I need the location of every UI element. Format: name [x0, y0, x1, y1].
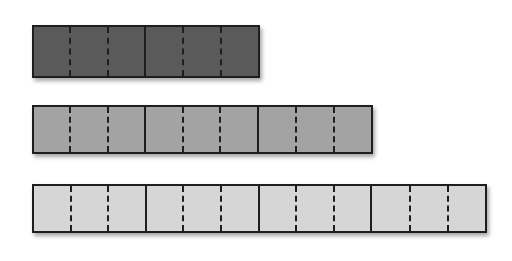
section-subdivision	[221, 107, 256, 152]
bar-section	[34, 186, 147, 231]
section-subdivision	[335, 107, 371, 152]
bar-section	[260, 186, 373, 231]
fraction-bar-1	[32, 25, 260, 78]
section-subdivision	[184, 27, 222, 76]
bar-section	[259, 107, 371, 152]
section-subdivision	[71, 107, 108, 152]
section-subdivision	[222, 186, 258, 231]
bar-section	[372, 186, 485, 231]
section-subdivision	[146, 27, 184, 76]
section-subdivision	[147, 186, 185, 231]
section-subdivision	[109, 186, 145, 231]
section-subdivision	[146, 107, 183, 152]
section-subdivision	[34, 107, 71, 152]
section-subdivision	[259, 107, 297, 152]
bar-section	[147, 186, 260, 231]
section-subdivision	[222, 27, 258, 76]
section-subdivision	[449, 186, 485, 231]
section-subdivision	[34, 27, 71, 76]
fraction-bar-3	[32, 184, 487, 233]
bar-section	[34, 27, 146, 76]
section-subdivision	[34, 186, 72, 231]
section-subdivision	[184, 186, 222, 231]
section-subdivision	[184, 107, 221, 152]
section-subdivision	[260, 186, 298, 231]
section-subdivision	[335, 186, 371, 231]
bar-section	[146, 107, 258, 152]
section-subdivision	[72, 186, 110, 231]
fraction-bar-2	[32, 105, 373, 154]
section-subdivision	[297, 107, 335, 152]
section-subdivision	[109, 107, 144, 152]
bar-section	[34, 107, 146, 152]
section-subdivision	[411, 186, 449, 231]
section-subdivision	[372, 186, 410, 231]
section-subdivision	[71, 27, 108, 76]
section-subdivision	[297, 186, 335, 231]
section-subdivision	[109, 27, 144, 76]
bar-section	[146, 27, 258, 76]
